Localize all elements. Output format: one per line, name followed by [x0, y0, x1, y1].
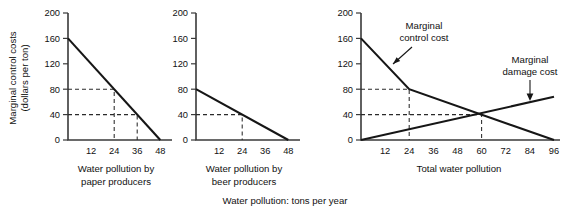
panel2-xtick-24: 24 [237, 146, 247, 156]
panel1-ytick-0: 0 [55, 135, 60, 145]
panel3-xtick-36: 36 [428, 146, 438, 156]
panel1-ytick-120: 120 [44, 59, 60, 69]
panel2-ytick-80: 80 [178, 85, 188, 95]
panel1-xtick-36: 36 [132, 146, 142, 156]
panel-beer-producers: 0 40 80 120 160 200 12 24 36 48 Water po… [172, 8, 300, 187]
panel3-ytick-160: 160 [337, 34, 353, 44]
panel3-x-axis-title: Total water pollution [417, 163, 502, 174]
panel1-xtick-12: 12 [86, 146, 96, 156]
panel2-ytick-0: 0 [183, 135, 188, 145]
panel2-x-axis-title-line1: Water pollution by [206, 163, 283, 174]
panel3-xtick-84: 84 [525, 146, 535, 156]
panel1-xtick-24: 24 [109, 146, 119, 156]
panel3-ytick-120: 120 [337, 59, 353, 69]
panel1-ytick-200: 200 [44, 8, 60, 18]
panel2-axes [196, 13, 300, 140]
panel3-guide-lines [361, 89, 482, 140]
panel3-ytick-200: 200 [337, 8, 353, 18]
figure-caption: Water pollution: tons per year [223, 195, 349, 206]
panel3-xtick-96: 96 [549, 146, 559, 156]
panel3-x-tick-labels: 12 24 36 48 60 72 84 96 [380, 146, 559, 156]
panel2-guide-40-24 [196, 115, 242, 140]
panel3-annotation-marginal-control-cost: Marginal control cost [393, 20, 449, 64]
figure-svg: Marginal control costs (dollars per ton)… [0, 0, 571, 209]
panel3-mcc-label-line2: control cost [399, 32, 448, 43]
panel2-ytick-160: 160 [172, 34, 188, 44]
panel3-xtick-24: 24 [404, 146, 414, 156]
panel-total-water-pollution: 0 40 80 120 160 200 Marginal control cos… [337, 8, 560, 174]
panel3-xtick-60: 60 [476, 146, 486, 156]
panel1-ytick-80: 80 [50, 85, 60, 95]
panel2-xtick-12: 12 [214, 146, 224, 156]
panel1-ytick-160: 160 [44, 34, 60, 44]
panel2-x-tick-labels: 12 24 36 48 [214, 146, 294, 156]
panel3-xtick-12: 12 [380, 146, 390, 156]
panel3-marginal-damage-cost-curve [361, 97, 554, 140]
panel2-xtick-36: 36 [260, 146, 270, 156]
panel2-ytick-40: 40 [178, 110, 188, 120]
panel1-x-axis-title-line2: paper producers [81, 176, 151, 187]
panel2-y-tick-labels: 0 40 80 120 160 200 [172, 8, 188, 145]
y-axis-label-line2: (dollars per ton) [19, 44, 30, 111]
panel2-xtick-48: 48 [283, 146, 293, 156]
panel1-x-tick-labels: 12 24 36 48 [86, 146, 166, 156]
panel3-ytick-40: 40 [343, 110, 353, 120]
panel3-xtick-48: 48 [452, 146, 462, 156]
panel3-mdc-arrowhead-icon [527, 93, 534, 101]
panel3-mcc-label-line1: Marginal [406, 20, 443, 31]
panel1-ytick-40: 40 [50, 110, 60, 120]
panel3-mdc-label-line2: damage cost [503, 66, 558, 77]
panel1-xtick-48: 48 [155, 146, 165, 156]
y-axis-label-line1: Marginal control costs [7, 31, 18, 125]
panel2-ytick-120: 120 [172, 59, 188, 69]
panel1-axes [68, 13, 172, 140]
panel3-ytick-80: 80 [343, 85, 353, 95]
panel3-y-tick-labels: 0 40 80 120 160 200 [337, 8, 353, 145]
panel1-guide-40-36 [68, 115, 137, 140]
panel2-x-axis-title-line2: beer producers [212, 176, 277, 187]
panel-paper-producers: 0 40 80 120 160 200 12 24 36 48 [44, 8, 172, 187]
panel3-ytick-0: 0 [348, 135, 353, 145]
panel1-y-tick-labels: 0 40 80 120 160 200 [44, 8, 60, 145]
panel3-mdc-label-line1: Marginal [512, 54, 549, 65]
economics-figure: Marginal control costs (dollars per ton)… [0, 0, 571, 209]
panel1-marginal-control-cost-curve [68, 38, 160, 140]
panel1-guide-lines [68, 89, 137, 140]
panel1-x-axis-title-line1: Water pollution by [78, 163, 155, 174]
shared-y-axis-label: Marginal control costs (dollars per ton) [7, 31, 30, 125]
panel3-annotation-marginal-damage-cost: Marginal damage cost [503, 54, 558, 101]
panel2-ytick-200: 200 [172, 8, 188, 18]
panel3-xtick-72: 72 [501, 146, 511, 156]
